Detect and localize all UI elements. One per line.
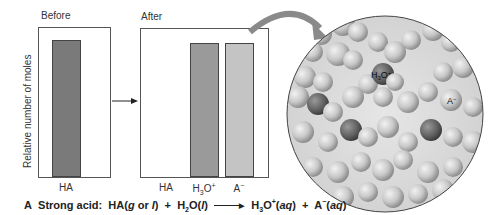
after-bar-h3o bbox=[190, 43, 219, 177]
after-xlabel-ha: HA bbox=[146, 182, 186, 193]
caption-equation: A Strong acid: HA(g or l) + H2O(l) ▶ H3O… bbox=[24, 198, 346, 213]
before-xlabel-ha: HA bbox=[46, 182, 86, 193]
arrow-icon bbox=[112, 96, 138, 106]
caption-letter: A bbox=[24, 199, 32, 211]
before-title: Before bbox=[41, 10, 70, 21]
after-xlabel-h3o: H3O+ bbox=[184, 182, 224, 196]
y-axis-label: Relative number of moles bbox=[22, 55, 33, 168]
after-xlabel-a-minus: A− bbox=[219, 182, 259, 194]
caption-title: Strong acid: bbox=[38, 199, 102, 211]
after-title: After bbox=[141, 11, 162, 22]
before-bar-ha bbox=[52, 40, 81, 177]
after-bar-a-minus bbox=[225, 43, 254, 177]
molecular-view: H3O+ A− bbox=[283, 12, 493, 215]
